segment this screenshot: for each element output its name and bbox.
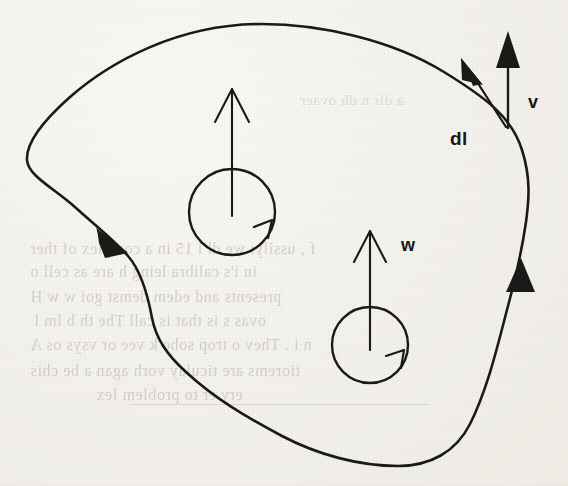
scanned-page: a dlr n dh ovaerf , ussily: we dl i 15 i…: [0, 0, 568, 486]
label-v: v: [528, 92, 538, 113]
diagram-artwork: [0, 0, 568, 486]
v-vector-head: [496, 31, 520, 68]
curve-direction-arrowhead-right: [506, 258, 535, 292]
upper-curl-circulation-arrowhead: [254, 220, 272, 238]
curve-direction-arrowhead-left-body: [97, 229, 128, 258]
dl-vector-head-fill: [461, 58, 483, 85]
label-w: w: [401, 235, 415, 256]
lower-curl-circulation-arrowhead: [386, 350, 404, 368]
label-dl: dl: [450, 128, 468, 150]
